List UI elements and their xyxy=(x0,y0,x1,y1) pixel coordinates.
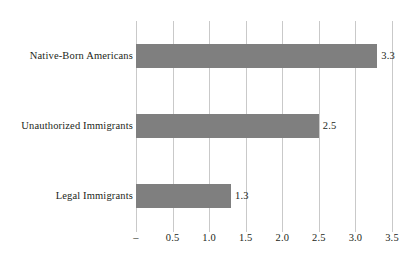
xtick-label-3.5: 3.5 xyxy=(385,232,399,244)
bar-legal-immigrants xyxy=(136,184,231,208)
xtick-label-1.0: 1.0 xyxy=(202,232,216,244)
plot-area xyxy=(136,21,392,225)
xtick-label-2.0: 2.0 xyxy=(275,232,289,244)
category-label-unauthorized-immigrants: Unauthorized Immigrants xyxy=(21,120,133,132)
value-label-legal-immigrants: 1.3 xyxy=(235,190,249,202)
bar-unauthorized-immigrants xyxy=(136,114,319,138)
value-label-unauthorized-immigrants: 2.5 xyxy=(323,120,337,132)
xtick-label-0.5: 0.5 xyxy=(166,232,180,244)
bar-native-born-americans xyxy=(136,44,377,68)
xtick-label-1.5: 1.5 xyxy=(239,232,253,244)
xtick-label-0: – xyxy=(133,232,138,244)
xtick-label-3.0: 3.0 xyxy=(349,232,363,244)
category-label-legal-immigrants: Legal Immigrants xyxy=(56,190,133,202)
bar-chart: Native-Born Americans Unauthorized Immig… xyxy=(0,0,418,257)
category-label-native-born-americans: Native-Born Americans xyxy=(30,50,133,62)
xtick-label-2.5: 2.5 xyxy=(312,232,326,244)
value-label-native-born-americans: 3.3 xyxy=(381,50,395,62)
